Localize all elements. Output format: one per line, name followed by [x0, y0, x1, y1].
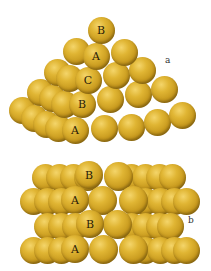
sphere	[103, 62, 130, 89]
sphere	[103, 210, 132, 239]
sphere	[118, 114, 145, 141]
figure: ABCAB BABA a b	[0, 0, 211, 271]
panel-a-label: a	[165, 55, 170, 65]
layer-label: A	[69, 195, 81, 206]
layer-label: B	[83, 170, 95, 181]
sphere	[157, 213, 184, 240]
panel-b-label: b	[188, 215, 194, 225]
sphere	[125, 81, 152, 108]
sphere	[151, 76, 178, 103]
sphere	[144, 109, 171, 136]
sphere	[89, 235, 118, 264]
sphere	[91, 115, 118, 142]
sphere	[159, 164, 186, 191]
layer-label: A	[69, 244, 81, 255]
sphere	[97, 86, 124, 113]
layer-label: B	[84, 219, 96, 230]
sphere	[119, 235, 148, 264]
sphere	[111, 39, 138, 66]
sphere	[173, 237, 200, 264]
layer-label: A	[90, 51, 102, 62]
layer-label: B	[76, 99, 88, 110]
layer-label: B	[95, 25, 107, 36]
layer-label: A	[69, 125, 81, 136]
sphere	[169, 102, 196, 129]
sphere	[173, 188, 200, 215]
layer-label: C	[82, 75, 94, 86]
